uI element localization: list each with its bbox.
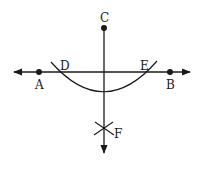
point-b <box>167 69 173 75</box>
label-c: C <box>100 11 109 25</box>
point-a <box>36 69 42 75</box>
point-c <box>101 25 107 31</box>
label-b: B <box>166 78 175 92</box>
label-e: E <box>140 59 149 73</box>
construction-diagram: A B C D E F <box>0 0 203 169</box>
label-a: A <box>34 78 44 92</box>
label-f: F <box>114 127 122 141</box>
label-d: D <box>60 59 70 73</box>
